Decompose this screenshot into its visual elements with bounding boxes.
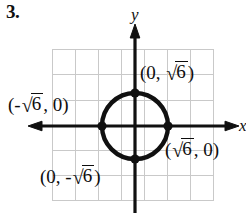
y-axis-arrowhead bbox=[130, 24, 140, 38]
y-axis-label: y bbox=[131, 6, 139, 23]
x-axis-arrowhead-left bbox=[28, 121, 42, 131]
point-label-top-close: ) bbox=[188, 62, 194, 83]
point-label-bottom-close: ) bbox=[94, 166, 100, 187]
point-label-left-open: (- bbox=[8, 94, 21, 115]
point-top bbox=[130, 88, 139, 97]
x-axis-arrowhead-right bbox=[225, 121, 239, 131]
point-bottom bbox=[130, 154, 139, 163]
point-left bbox=[97, 121, 106, 130]
point-label-right: (√6, 0) bbox=[165, 139, 219, 159]
sqrt-symbol-right: √6 bbox=[171, 139, 193, 159]
radicand-bottom: 6 bbox=[82, 165, 95, 185]
radicand-right: 6 bbox=[181, 138, 194, 158]
radicand-left: 6 bbox=[31, 93, 44, 113]
sqrt-symbol-left: √6 bbox=[21, 94, 43, 114]
point-right bbox=[163, 121, 172, 130]
point-label-top-open: (0, bbox=[140, 62, 165, 83]
sqrt-symbol-top: √6 bbox=[165, 62, 187, 82]
point-label-bottom-open: (0, - bbox=[40, 166, 72, 187]
sqrt-symbol-bottom: √6 bbox=[72, 166, 94, 186]
radicand-top: 6 bbox=[175, 61, 188, 81]
point-label-left-close: , 0) bbox=[43, 94, 68, 115]
point-label-bottom: (0, -√6) bbox=[40, 166, 100, 186]
point-label-top: (0, √6) bbox=[140, 62, 194, 82]
x-axis-label: x bbox=[239, 117, 246, 134]
graph-figure: 3. bbox=[0, 0, 246, 213]
point-label-left: (-√6, 0) bbox=[8, 94, 68, 114]
point-label-right-close: , 0) bbox=[194, 139, 219, 160]
